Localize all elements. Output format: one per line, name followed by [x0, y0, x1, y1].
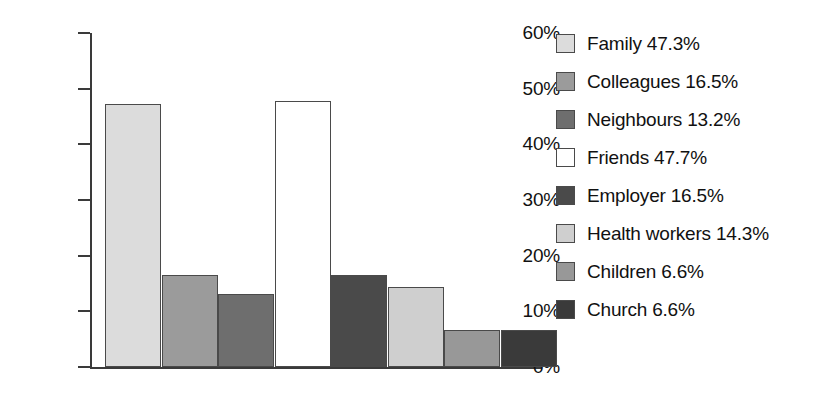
chart-legend: Family 47.3%Colleagues 16.5%Neighbours 1…: [556, 24, 830, 328]
bar: [105, 104, 161, 367]
legend-row: Family 47.3%: [556, 24, 830, 62]
y-tick-label: 10%: [490, 301, 560, 320]
legend-swatch-icon: [556, 34, 575, 53]
bar: [501, 330, 557, 367]
legend-row: Friends 47.7%: [556, 138, 830, 176]
y-tick-label: 30%: [490, 190, 560, 209]
legend-swatch-icon: [556, 300, 575, 319]
bar: [388, 287, 444, 367]
legend-swatch-icon: [556, 72, 575, 91]
legend-row: Children 6.6%: [556, 252, 830, 290]
y-tick-mark: [78, 255, 90, 257]
x-axis-line: [90, 367, 542, 369]
legend-swatch-icon: [556, 262, 575, 281]
y-tick-mark: [78, 199, 90, 201]
legend-row: Employer 16.5%: [556, 176, 830, 214]
legend-swatch-icon: [556, 110, 575, 129]
y-tick-mark: [78, 310, 90, 312]
y-tick-mark: [78, 32, 90, 34]
bar-chart-figure: 60%50%40%30%20%10%0% Family 47.3%Colleag…: [0, 0, 830, 405]
legend-swatch-icon: [556, 148, 575, 167]
bar: [218, 294, 274, 367]
y-axis-line: [90, 33, 92, 369]
legend-label: Children 6.6%: [587, 262, 704, 281]
bar: [275, 101, 331, 367]
y-tick-label: 60%: [490, 23, 560, 42]
legend-label: Friends 47.7%: [587, 148, 707, 167]
y-tick-mark: [78, 88, 90, 90]
y-tick-label: 40%: [490, 134, 560, 153]
y-tick-label: 50%: [490, 79, 560, 98]
y-tick-label: 20%: [490, 246, 560, 265]
legend-row: Church 6.6%: [556, 290, 830, 328]
legend-label: Colleagues 16.5%: [587, 72, 738, 91]
plot-area: 60%50%40%30%20%10%0%: [0, 0, 560, 405]
bar: [444, 330, 500, 367]
legend-label: Church 6.6%: [587, 300, 695, 319]
legend-row: Neighbours 13.2%: [556, 100, 830, 138]
legend-row: Health workers 14.3%: [556, 214, 830, 252]
y-tick-mark: [78, 366, 90, 368]
legend-swatch-icon: [556, 186, 575, 205]
y-tick-mark: [78, 143, 90, 145]
legend-row: Colleagues 16.5%: [556, 62, 830, 100]
bar: [331, 275, 387, 367]
legend-label: Family 47.3%: [587, 34, 700, 53]
legend-label: Health workers 14.3%: [587, 224, 769, 243]
legend-label: Employer 16.5%: [587, 186, 724, 205]
bar: [162, 275, 218, 367]
legend-label: Neighbours 13.2%: [587, 110, 740, 129]
legend-swatch-icon: [556, 224, 575, 243]
